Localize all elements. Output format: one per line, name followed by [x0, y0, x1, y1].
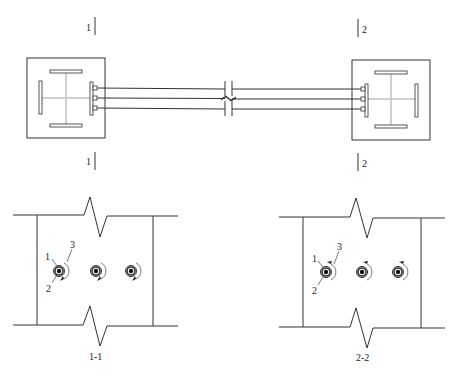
connection-diagram: 1 1 2 2: [0, 0, 454, 374]
bolt: [91, 263, 106, 281]
section-mark-label: 2: [362, 158, 367, 169]
section-mark-label: 1: [86, 22, 91, 33]
bolt: [126, 263, 141, 281]
bolt: [54, 263, 69, 281]
section-mark-2-top: 2: [358, 19, 367, 37]
callout-1: 1: [312, 253, 317, 264]
break-symbol: [221, 81, 236, 116]
section-2-2: 1 3 2 2-2: [279, 198, 445, 363]
callout-2: 2: [312, 285, 317, 296]
right-column: [352, 60, 430, 140]
bolt: [393, 261, 408, 280]
section-mark-2-bottom: 2: [358, 153, 367, 171]
left-column: [27, 58, 105, 138]
callout-1: 1: [45, 251, 50, 262]
bolt: [357, 261, 372, 280]
callout-3: 3: [70, 239, 75, 250]
section-mark-1-bottom: 1: [86, 152, 95, 170]
callout-3: 3: [337, 241, 342, 252]
plan-view: 1 1 2 2: [27, 17, 430, 171]
section-1-1: 1 3 2 1-1: [13, 197, 178, 362]
section-mark-label: 1: [86, 156, 91, 167]
section-mark-label: 2: [362, 24, 367, 35]
section-mark-1-top: 1: [86, 17, 95, 35]
section-title: 1-1: [89, 351, 102, 362]
section-title: 2-2: [356, 352, 369, 363]
callout-2: 2: [46, 283, 51, 294]
